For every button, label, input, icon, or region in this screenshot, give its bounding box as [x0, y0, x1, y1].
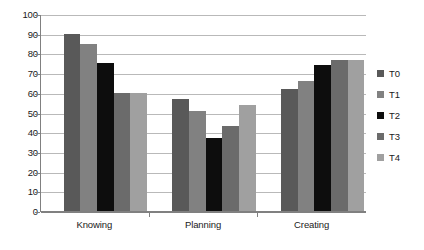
- y-axis-tick-label: 90: [8, 30, 38, 40]
- bar-T0-knowing: [64, 34, 81, 211]
- bar-T1-planning: [189, 111, 206, 211]
- y-axis-tick-label: 60: [8, 89, 38, 99]
- y-axis-tick-mark: [35, 212, 40, 213]
- y-axis-tick-label: 80: [8, 49, 38, 59]
- legend-label: T2: [389, 111, 400, 121]
- x-axis-label-knowing: Knowing: [40, 220, 149, 230]
- gridline-100: [41, 15, 366, 16]
- bar-T0-planning: [172, 99, 189, 211]
- y-axis-tick-label: 70: [8, 69, 38, 79]
- legend-item-t0: T0: [377, 63, 424, 84]
- x-axis-label-creating: Creating: [257, 220, 366, 230]
- y-axis-tick-label: 10: [8, 187, 38, 197]
- plot-area: [40, 15, 366, 212]
- legend-item-t3: T3: [377, 126, 424, 147]
- x-axis-tick-mark: [257, 212, 258, 217]
- y-axis-tick-label: 100: [8, 10, 38, 20]
- y-axis-tick-label: 30: [8, 148, 38, 158]
- bar-T3-knowing: [114, 93, 131, 211]
- chart-legend: T0T1T2T3T4: [377, 63, 424, 168]
- legend-item-t2: T2: [377, 105, 424, 126]
- x-axis-label-planning: Planning: [149, 220, 258, 230]
- gridline-90: [41, 35, 366, 36]
- legend-swatch-icon: [377, 154, 384, 161]
- legend-label: T4: [389, 153, 400, 163]
- legend-swatch-icon: [377, 70, 384, 77]
- y-axis-tick-label: 50: [8, 109, 38, 119]
- y-axis-tick-label: 40: [8, 128, 38, 138]
- bar-T4-creating: [348, 60, 365, 211]
- bar-T4-knowing: [130, 93, 147, 211]
- bar-T1-creating: [298, 81, 315, 211]
- y-axis-tick-label: 20: [8, 168, 38, 178]
- legend-item-t1: T1: [377, 84, 424, 105]
- bar-T2-knowing: [97, 63, 114, 211]
- y-axis-tick-label: 0: [8, 207, 38, 217]
- bar-T3-creating: [331, 60, 348, 211]
- legend-swatch-icon: [377, 112, 384, 119]
- bar-T4-planning: [239, 105, 256, 211]
- legend-label: T0: [389, 69, 400, 79]
- x-axis-tick-mark: [149, 212, 150, 217]
- legend-swatch-icon: [377, 133, 384, 140]
- bar-T0-creating: [281, 89, 298, 211]
- legend-label: T1: [389, 90, 400, 100]
- bar-chart: 1009080706050403020100 KnowingPlanningCr…: [0, 0, 424, 250]
- gridline-0: [41, 212, 366, 213]
- bar-T2-planning: [206, 138, 223, 211]
- legend-item-t4: T4: [377, 147, 424, 168]
- bar-T3-planning: [222, 126, 239, 211]
- bar-T1-knowing: [80, 44, 97, 211]
- legend-swatch-icon: [377, 91, 384, 98]
- legend-label: T3: [389, 132, 400, 142]
- bar-T2-creating: [314, 65, 331, 211]
